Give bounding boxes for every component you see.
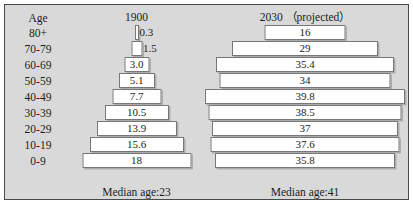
bar-row: 7.7 (71, 89, 202, 105)
bar-value: 37.6 (212, 138, 399, 151)
bar-1900-10-19: 15.6 (90, 137, 184, 152)
bar-value: 16 (266, 26, 345, 39)
bar-2030-60-69: 35.4 (216, 57, 394, 72)
median-age-2030: Median age:41 (202, 185, 408, 200)
bar-1900-40-49: 7.7 (112, 89, 161, 104)
bar-row: 13.9 (71, 121, 202, 137)
bar-1900-0-9: 18 (82, 153, 191, 168)
bar-1900-70-79: 1.5 (131, 41, 142, 56)
bar-value: 1.5 (141, 42, 157, 55)
bar-2030-40-49: 39.8 (205, 89, 405, 104)
bar-value: 5.1 (120, 74, 154, 87)
bar-row: 0.3 (71, 25, 202, 41)
bar-row: 10.5 (71, 105, 202, 121)
age-group-label: 80+ (5, 25, 71, 41)
median-age-1900: Median age:23 (71, 185, 202, 200)
bar-value: 13.9 (98, 122, 176, 135)
bar-2030-50-59: 34 (220, 73, 391, 88)
bar-2030-80plus: 16 (265, 25, 346, 40)
bar-2030-30-39: 38.5 (209, 105, 402, 120)
bar-value: 37 (213, 122, 397, 135)
panel-title-2030: 2030 （projected） (202, 10, 408, 25)
age-group-label: 10-19 (5, 137, 71, 153)
age-group-label: 20-29 (5, 121, 71, 137)
bar-1900-60-69: 3.0 (124, 57, 149, 72)
bar-row: 1.5 (71, 41, 202, 57)
age-label-column: Age 80+ 70-79 60-69 50-59 40-49 30-39 20… (5, 5, 71, 199)
bar-2030-20-29: 37 (212, 121, 398, 136)
panel-title-1900: 1900 (71, 10, 202, 25)
bar-row: 35.8 (202, 153, 408, 169)
bar-value: 15.6 (91, 138, 183, 151)
bar-1900-30-39: 10.5 (105, 105, 169, 120)
bar-value: 35.8 (216, 154, 394, 167)
panel-2030: 2030 （projected） 16 29 35.4 34 (202, 5, 408, 199)
age-column-header: Age (5, 10, 71, 26)
age-group-label: 50-59 (5, 73, 71, 89)
age-group-label: 40-49 (5, 89, 71, 105)
age-group-label: 60-69 (5, 57, 71, 73)
panel-1900: 1900 0.3 1.5 3.0 5.1 (71, 5, 202, 199)
bar-group-1900: 0.3 1.5 3.0 5.1 7.7 (71, 25, 202, 185)
bar-value: 7.7 (113, 90, 160, 103)
bar-row: 16 (202, 25, 408, 41)
bar-row: 38.5 (202, 105, 408, 121)
bar-value: 0.3 (138, 26, 154, 39)
bar-2030-10-19: 37.6 (211, 137, 400, 152)
bar-row: 39.8 (202, 89, 408, 105)
bar-value: 34 (221, 74, 390, 87)
bar-row: 5.1 (71, 73, 202, 89)
bar-row: 3.0 (71, 57, 202, 73)
bar-value: 10.5 (106, 106, 168, 119)
bar-1900-80plus: 0.3 (135, 25, 139, 40)
bar-row: 34 (202, 73, 408, 89)
bar-value: 18 (83, 154, 190, 167)
bar-value: 29 (233, 42, 377, 55)
bar-value: 35.4 (217, 58, 393, 71)
bar-row: 18 (71, 153, 202, 169)
bar-1900-20-29: 13.9 (97, 121, 177, 136)
bar-value: 3.0 (125, 58, 148, 71)
bar-group-2030: 16 29 35.4 34 39.8 (202, 25, 408, 185)
bar-row: 37 (202, 121, 408, 137)
age-group-label: 30-39 (5, 105, 71, 121)
age-group-label: 0-9 (5, 153, 71, 169)
bar-2030-0-9: 35.8 (215, 153, 395, 168)
age-group-label: 70-79 (5, 41, 71, 57)
bar-value: 39.8 (206, 90, 404, 103)
bar-1900-50-59: 5.1 (119, 73, 155, 88)
bar-2030-70-79: 29 (232, 41, 378, 56)
bar-row: 15.6 (71, 137, 202, 153)
bar-value: 38.5 (210, 106, 401, 119)
bar-row: 37.6 (202, 137, 408, 153)
bar-row: 35.4 (202, 57, 408, 73)
bar-row: 29 (202, 41, 408, 57)
population-pyramid-figure: Age 80+ 70-79 60-69 50-59 40-49 30-39 20… (4, 4, 409, 200)
